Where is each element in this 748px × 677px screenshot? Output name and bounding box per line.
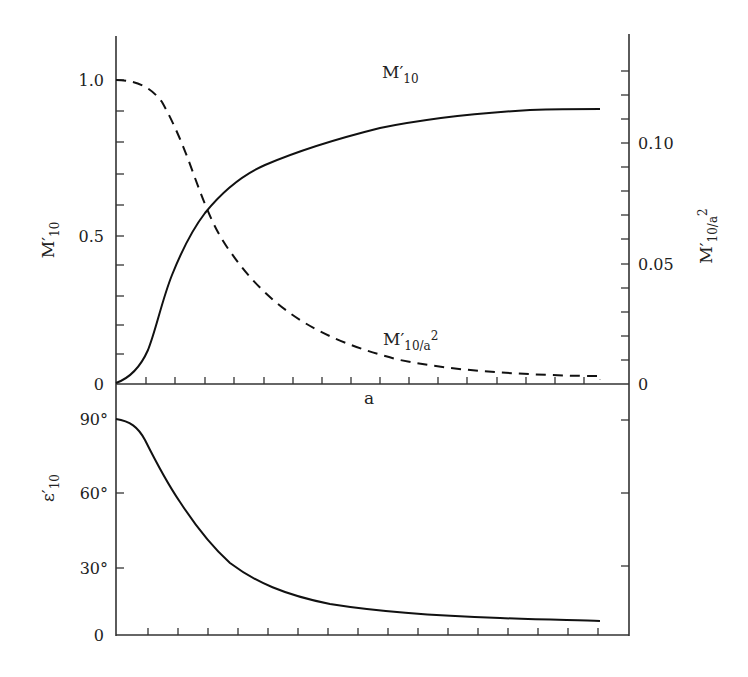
left-y-axis-label-bottom: ε′10 bbox=[38, 474, 62, 502]
tick-label: 30° bbox=[80, 559, 108, 578]
right-y-axis-label-top: M′10/a2 bbox=[696, 208, 720, 263]
left-y-axis-label-top: M′10 bbox=[38, 222, 62, 259]
right-top-tick-labels: 0.10 0.05 0 bbox=[638, 134, 674, 394]
bottom-x-ticks bbox=[148, 628, 598, 635]
curve-label-m10: M′10 bbox=[382, 62, 419, 86]
right-top-ticks bbox=[621, 71, 629, 360]
tick-label: 0.10 bbox=[638, 134, 674, 153]
tick-label: 0.05 bbox=[638, 255, 674, 274]
tick-label: 0 bbox=[94, 375, 104, 394]
axes bbox=[116, 34, 629, 636]
curve-label-m10a2: M′10/a2 bbox=[383, 329, 438, 353]
tick-label: 0.5 bbox=[79, 227, 104, 246]
top-x-ticks bbox=[146, 377, 584, 384]
left-top-tick-labels: 1.0 0.5 0 bbox=[79, 71, 104, 394]
tick-label: 0 bbox=[638, 375, 648, 394]
tick-label: 60° bbox=[80, 484, 108, 503]
tick-label: 1.0 bbox=[79, 71, 104, 90]
chart-canvas: 1.0 0.5 0 0.10 0.05 0 90° 60° 30° 0 a M′… bbox=[0, 0, 748, 677]
tick-label: 0 bbox=[94, 626, 104, 645]
series-m10-solid bbox=[116, 109, 600, 383]
bottom-y-ticks bbox=[116, 420, 629, 568]
left-top-ticks bbox=[116, 80, 124, 354]
x-axis-label: a bbox=[364, 388, 374, 408]
tick-label: 90° bbox=[80, 410, 108, 429]
series-m10a2-dashed bbox=[116, 80, 600, 380]
series-epsilon10 bbox=[116, 419, 600, 621]
left-bottom-tick-labels: 90° 60° 30° 0 bbox=[80, 410, 108, 645]
